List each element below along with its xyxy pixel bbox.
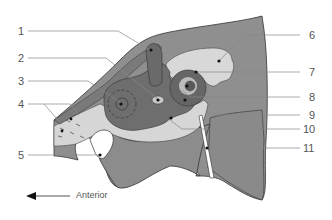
label-9: 9 [309, 109, 325, 121]
label-2: 2 [12, 52, 24, 64]
label-11: 11 [303, 142, 319, 154]
label-4: 4 [12, 98, 24, 110]
label-3: 3 [12, 75, 24, 87]
label-6: 6 [309, 29, 325, 41]
posterior-block [208, 110, 264, 200]
label-8: 8 [309, 91, 325, 103]
label-7: 7 [309, 66, 325, 78]
anatomical-diagram [0, 0, 332, 220]
arrow-left-icon [26, 192, 70, 200]
label-1: 1 [12, 25, 24, 37]
label-5: 5 [12, 149, 24, 161]
anterior-direction-label: Anterior [76, 190, 108, 200]
label-10: 10 [303, 123, 319, 135]
